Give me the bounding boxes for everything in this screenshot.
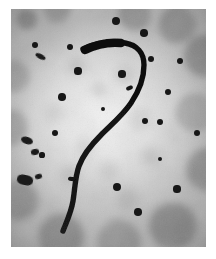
micrograph-plate — [11, 9, 206, 247]
filament-layer — [11, 9, 206, 247]
filament-stroke — [63, 42, 144, 231]
micrograph-root — [0, 0, 216, 259]
upper-spur — [126, 85, 134, 91]
filament-head-thickening — [85, 43, 121, 50]
